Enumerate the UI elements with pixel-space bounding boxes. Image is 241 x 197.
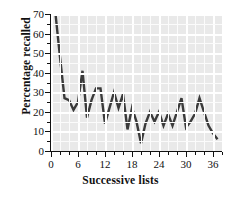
y-tick-label: 70 <box>33 9 44 19</box>
x-axis-tick-labels: 061218243036 <box>0 158 241 174</box>
x-tick-label: 24 <box>154 158 165 170</box>
x-tick-label: 12 <box>100 158 111 170</box>
gridline-horizontal <box>51 122 222 123</box>
x-tick-mark <box>141 152 142 155</box>
x-tick-label: 0 <box>48 158 54 170</box>
x-tick-label: 36 <box>208 158 219 170</box>
y-tick-label: 30 <box>33 87 44 97</box>
x-tick-mark <box>69 152 70 155</box>
x-tick-mark <box>114 152 115 155</box>
gridline-horizontal <box>51 83 222 84</box>
x-tick-mark <box>186 152 187 157</box>
gridline-horizontal <box>51 34 222 36</box>
x-tick-mark <box>105 152 106 157</box>
x-tick-mark <box>195 152 196 155</box>
gridline-horizontal <box>51 24 222 25</box>
gridline-horizontal <box>51 14 222 16</box>
gridline-horizontal <box>51 63 222 64</box>
gridline-horizontal <box>51 73 222 75</box>
x-tick-mark <box>168 152 169 155</box>
gridline-horizontal <box>51 53 222 55</box>
y-tick-label: 50 <box>33 48 44 58</box>
x-tick-mark <box>132 152 133 157</box>
gridline-horizontal <box>51 102 222 103</box>
x-tick-label: 18 <box>127 158 138 170</box>
gridline-horizontal <box>51 92 222 94</box>
x-tick-mark <box>78 152 79 157</box>
x-tick-mark <box>51 152 52 157</box>
x-tick-mark <box>204 152 205 155</box>
gridline-horizontal <box>51 112 222 114</box>
y-tick-label: 10 <box>33 126 44 136</box>
y-tick-label: 20 <box>33 107 44 117</box>
x-tick-label: 30 <box>181 158 192 170</box>
x-axis-title: Successive lists <box>0 174 241 186</box>
x-tick-mark <box>123 152 124 155</box>
y-tick-label: 60 <box>33 29 44 39</box>
x-tick-mark <box>96 152 97 155</box>
x-tick-mark <box>60 152 61 155</box>
y-tick-label: 40 <box>33 68 44 78</box>
gridline-horizontal <box>51 141 222 142</box>
x-tick-mark <box>159 152 160 157</box>
x-tick-mark <box>222 152 223 155</box>
chart-figure: Percentage recalled 010203040506070 0612… <box>0 0 241 197</box>
gridline-horizontal <box>51 43 222 44</box>
plot-area <box>51 14 222 151</box>
x-tick-mark <box>177 152 178 155</box>
gridline-horizontal <box>51 131 222 133</box>
x-tick-mark <box>150 152 151 155</box>
x-tick-mark <box>87 152 88 155</box>
x-tick-mark <box>213 152 214 157</box>
x-tick-label: 6 <box>75 158 81 170</box>
